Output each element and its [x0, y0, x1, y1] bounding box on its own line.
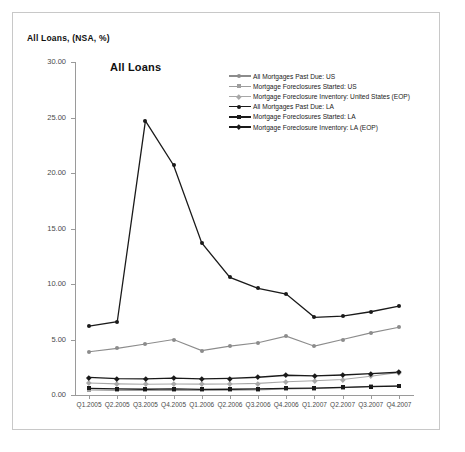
y-axis-tick-label: 20.00: [20, 168, 66, 177]
x-axis-tick-mark: [230, 395, 231, 399]
x-axis-tick-label: Q4.2005: [161, 401, 186, 408]
series-data-point: [115, 320, 119, 324]
series-data-point: [172, 163, 176, 167]
legend-marker-icon: [236, 124, 241, 129]
chart-legend: All Mortgages Past Due: USMortgage Forec…: [229, 71, 410, 132]
x-axis-tick-label: Q1.2007: [302, 401, 327, 408]
panel-title: All Loans, (NSA, %): [27, 33, 110, 43]
series-data-point: [172, 338, 176, 342]
series-data-point: [256, 387, 260, 391]
x-axis-tick-mark: [202, 395, 203, 399]
legend-marker-icon: [236, 94, 241, 99]
legend-label: Mortgage Foreclosure Inventory: United S…: [253, 93, 410, 100]
series-data-point: [228, 387, 232, 391]
series-data-point: [312, 386, 316, 390]
series-data-point: [397, 384, 401, 388]
x-axis-tick-mark: [286, 395, 287, 399]
series-data-point: [369, 331, 373, 335]
legend-label: All Mortgages Past Due: US: [253, 73, 335, 80]
series-data-point: [341, 338, 345, 342]
x-axis-tick-mark: [343, 395, 344, 399]
series-line: [89, 327, 399, 351]
series-data-point: [87, 350, 91, 354]
x-axis-line: [75, 395, 414, 396]
series-data-point: [256, 341, 260, 345]
legend-marker-icon: [237, 105, 241, 109]
series-data-point: [341, 314, 345, 318]
chart-screenshot: { "header": { "label": "All Loans, (NSA,…: [0, 0, 465, 452]
series-data-point: [200, 387, 204, 391]
x-axis-tick-label: Q3.2005: [133, 401, 158, 408]
x-axis-tick-mark: [145, 395, 146, 399]
y-axis-tick-label: 10.00: [20, 279, 66, 288]
x-axis-tick-mark: [371, 395, 372, 399]
series-data-point: [143, 387, 147, 391]
legend-label: Mortgage Foreclosure Inventory: LA (EOP): [253, 124, 378, 131]
x-axis-tick-mark: [89, 395, 90, 399]
legend-item[interactable]: All Mortgages Past Due: LA: [229, 102, 410, 112]
x-axis-tick-label: Q4.2006: [274, 401, 299, 408]
series-data-point: [369, 385, 373, 389]
legend-item[interactable]: All Mortgages Past Due: US: [229, 71, 410, 81]
x-axis-tick-label: Q4.2007: [386, 401, 411, 408]
y-axis-tick-label: 30.00: [20, 57, 66, 66]
x-axis-tick-label: Q2.2006: [217, 401, 242, 408]
y-axis-tick-label: 15.00: [20, 224, 66, 233]
legend-swatch: [229, 102, 251, 112]
series-data-point: [172, 387, 176, 391]
x-axis-tick-mark: [117, 395, 118, 399]
legend-swatch: [229, 112, 251, 122]
legend-item[interactable]: Mortgage Foreclosure Inventory: United S…: [229, 91, 410, 101]
legend-label: All Mortgages Past Due: LA: [253, 103, 334, 110]
legend-swatch: [229, 91, 251, 101]
legend-marker-icon: [237, 115, 241, 119]
legend-marker-icon: [237, 74, 241, 78]
x-axis-tick-mark: [174, 395, 175, 399]
series-data-point: [200, 349, 204, 353]
series-data-point: [200, 241, 204, 245]
x-axis-tick-label: Q2.2005: [105, 401, 130, 408]
y-axis-tick-label: 5.00: [20, 335, 66, 344]
x-axis-tick-label: Q2.2007: [330, 401, 355, 408]
series-data-point: [284, 386, 288, 390]
y-axis-tick-label: 0.00: [20, 390, 66, 399]
legend-swatch: [229, 71, 251, 81]
series-line: [89, 386, 399, 389]
x-axis-tick-label: Q3.2006: [246, 401, 271, 408]
series-line: [89, 121, 399, 326]
series-data-point: [115, 387, 119, 391]
y-axis-tick-mark: [71, 395, 75, 396]
legend-item[interactable]: Mortgage Foreclosure Inventory: LA (EOP): [229, 122, 410, 132]
series-data-point: [341, 385, 345, 389]
legend-item[interactable]: Mortgage Foreclosures Started: LA: [229, 112, 410, 122]
y-axis-tick-label: 25.00: [20, 113, 66, 122]
legend-item[interactable]: Mortgage Foreclosures Started: US: [229, 81, 410, 91]
x-axis-tick-label: Q3.2007: [358, 401, 383, 408]
x-axis-tick-label: Q1.2006: [189, 401, 214, 408]
x-axis-tick-mark: [314, 395, 315, 399]
legend-marker-icon: [237, 84, 241, 88]
legend-label: Mortgage Foreclosures Started: LA: [253, 113, 356, 120]
legend-swatch: [229, 122, 251, 132]
legend-label: Mortgage Foreclosures Started: US: [253, 83, 357, 90]
x-axis-tick-mark: [399, 395, 400, 399]
series-data-point: [87, 386, 91, 390]
series-data-point: [369, 310, 373, 314]
legend-swatch: [229, 81, 251, 91]
x-axis-tick-mark: [258, 395, 259, 399]
x-axis-tick-label: Q1.2005: [77, 401, 102, 408]
